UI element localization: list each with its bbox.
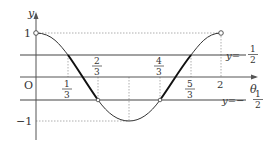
label-y-minus-half: y=− 1 2 [221,89,263,110]
y-axis-arrow-icon [34,12,39,19]
theta-axis-arrow-icon [251,75,258,80]
tick-five-thirds: 5 3 [185,79,195,100]
point-two-thirds [96,98,100,102]
tick-one-third: 1 3 [62,79,72,100]
svg-text:2: 2 [250,55,256,65]
point-four-thirds [158,98,162,102]
open-endpoint-end [219,31,224,36]
tick-four-thirds: 4 3 [154,56,164,77]
svg-text:y=−: y=− [221,95,244,106]
origin-label: O [24,79,33,92]
svg-text:5: 5 [187,79,193,89]
svg-text:3: 3 [64,90,70,100]
svg-text:2: 2 [255,100,261,110]
svg-text:2: 2 [94,56,100,66]
svg-text:3: 3 [156,67,162,77]
y-tick-minus-one: −1 [16,115,32,128]
svg-text:1: 1 [64,79,70,89]
svg-text:1: 1 [250,44,256,54]
svg-text:4: 4 [156,56,162,66]
cosine-graph: y 1 −1 O θ 1 3 2 3 4 3 5 3 2 y= 1 2 y=− … [0,0,277,148]
y-tick-one: 1 [24,27,31,40]
svg-text:3: 3 [94,67,100,77]
tick-two-thirds: 2 3 [92,56,102,77]
tick-two: 2 [217,79,223,90]
y-axis-label: y [27,7,35,20]
svg-text:y=: y= [225,50,240,61]
svg-text:3: 3 [187,90,193,100]
open-endpoint-start [34,31,39,36]
svg-text:1: 1 [255,89,261,99]
